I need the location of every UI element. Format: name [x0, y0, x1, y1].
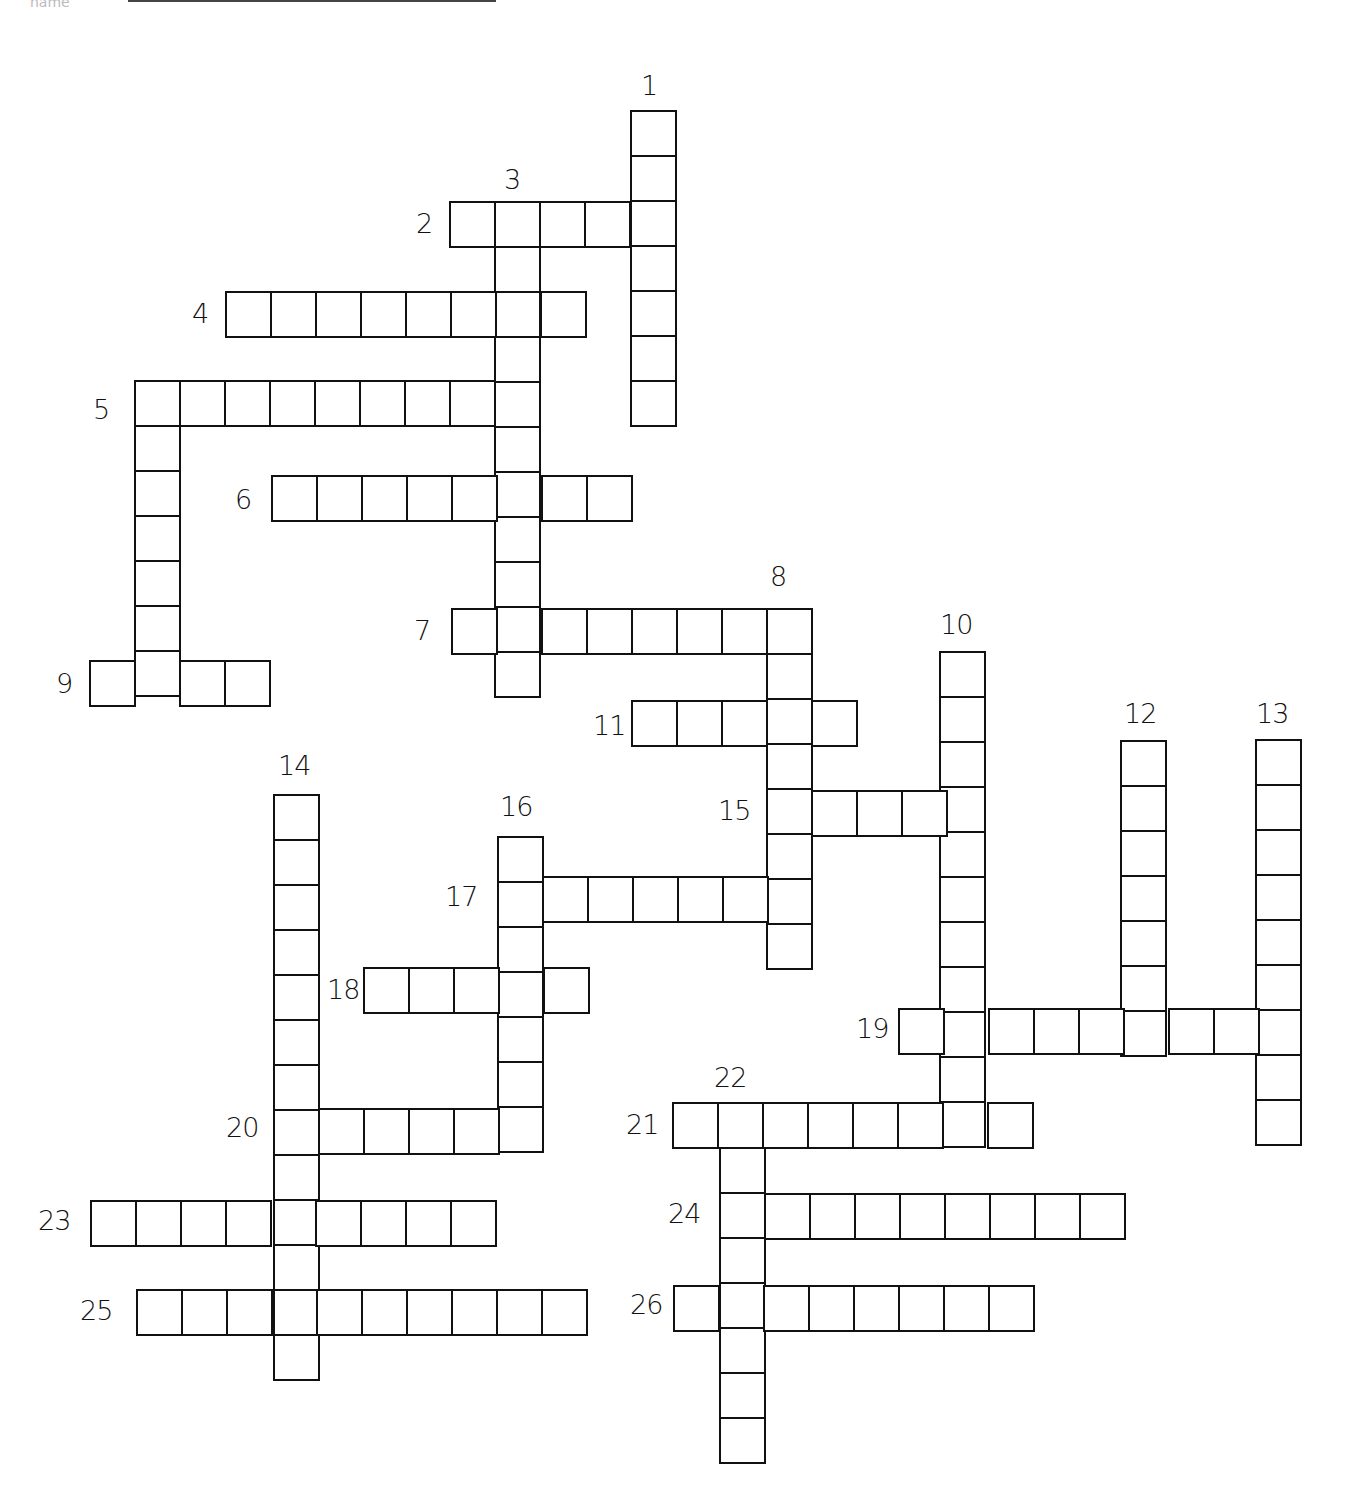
cell-letter-input[interactable]	[275, 976, 318, 1019]
cell-letter-input[interactable]	[496, 293, 539, 336]
cell-letter-input[interactable]	[989, 1104, 1032, 1147]
cell-letter-input[interactable]	[941, 698, 984, 741]
crossword-cell[interactable]	[181, 1289, 228, 1336]
cell-letter-input[interactable]	[765, 1287, 808, 1330]
crossword-cell[interactable]	[134, 380, 181, 427]
cell-letter-input[interactable]	[275, 931, 318, 974]
crossword-cell[interactable]	[225, 1200, 272, 1247]
cell-letter-input[interactable]	[941, 743, 984, 786]
cell-letter-input[interactable]	[1257, 1101, 1300, 1144]
cell-letter-input[interactable]	[275, 1111, 318, 1154]
crossword-cell[interactable]	[719, 1417, 766, 1464]
cell-letter-input[interactable]	[543, 477, 586, 520]
crossword-cell[interactable]	[180, 1200, 227, 1247]
crossword-cell[interactable]	[672, 1102, 719, 1149]
cell-letter-input[interactable]	[632, 247, 675, 290]
cell-letter-input[interactable]	[499, 1108, 542, 1151]
crossword-cell[interactable]	[451, 608, 498, 655]
crossword-cell[interactable]	[630, 200, 677, 247]
cell-letter-input[interactable]	[407, 1202, 450, 1245]
crossword-cell[interactable]	[497, 971, 544, 1018]
crossword-cell[interactable]	[497, 836, 544, 883]
crossword-cell[interactable]	[496, 1289, 543, 1336]
crossword-cell[interactable]	[939, 741, 986, 788]
crossword-cell[interactable]	[494, 246, 541, 293]
crossword-cell[interactable]	[494, 381, 541, 428]
crossword-cell[interactable]	[1255, 739, 1302, 786]
cell-letter-input[interactable]	[900, 1287, 943, 1330]
cell-letter-input[interactable]	[1122, 877, 1165, 920]
cell-letter-input[interactable]	[990, 1010, 1033, 1053]
cell-letter-input[interactable]	[719, 1104, 762, 1147]
crossword-cell[interactable]	[763, 1285, 810, 1332]
cell-letter-input[interactable]	[226, 662, 269, 705]
cell-letter-input[interactable]	[1122, 787, 1165, 830]
cell-letter-input[interactable]	[453, 610, 496, 653]
cell-letter-input[interactable]	[941, 653, 984, 696]
cell-letter-input[interactable]	[1122, 832, 1165, 875]
cell-letter-input[interactable]	[318, 1291, 361, 1334]
crossword-cell[interactable]	[766, 923, 813, 970]
crossword-cell[interactable]	[226, 1289, 273, 1336]
cell-letter-input[interactable]	[92, 1202, 135, 1245]
cell-letter-input[interactable]	[1170, 1010, 1213, 1053]
crossword-cell[interactable]	[451, 475, 498, 522]
crossword-cell[interactable]	[134, 560, 181, 607]
crossword-cell[interactable]	[451, 1289, 498, 1336]
cell-letter-input[interactable]	[317, 293, 360, 336]
crossword-cell[interactable]	[717, 1102, 764, 1149]
crossword-cell[interactable]	[898, 1285, 945, 1332]
cell-letter-input[interactable]	[768, 610, 811, 653]
cell-letter-input[interactable]	[275, 1291, 318, 1334]
cell-letter-input[interactable]	[588, 610, 631, 653]
cell-letter-input[interactable]	[181, 382, 224, 425]
crossword-cell[interactable]	[764, 1193, 811, 1240]
crossword-cell[interactable]	[1120, 1010, 1167, 1057]
cell-letter-input[interactable]	[136, 472, 179, 515]
cell-letter-input[interactable]	[543, 610, 586, 653]
crossword-cell[interactable]	[1034, 1193, 1081, 1240]
crossword-cell[interactable]	[494, 651, 541, 698]
crossword-cell[interactable]	[807, 1102, 854, 1149]
cell-letter-input[interactable]	[273, 477, 316, 520]
cell-letter-input[interactable]	[408, 477, 451, 520]
crossword-cell[interactable]	[584, 201, 631, 248]
crossword-cell[interactable]	[988, 1008, 1035, 1055]
crossword-cell[interactable]	[224, 660, 271, 707]
cell-letter-input[interactable]	[678, 610, 721, 653]
cell-letter-input[interactable]	[632, 337, 675, 380]
cell-letter-input[interactable]	[91, 662, 134, 705]
crossword-cell[interactable]	[316, 475, 363, 522]
cell-letter-input[interactable]	[809, 1104, 852, 1147]
cell-letter-input[interactable]	[138, 1291, 181, 1334]
crossword-cell[interactable]	[273, 794, 320, 841]
crossword-cell[interactable]	[1255, 1099, 1302, 1146]
cell-letter-input[interactable]	[317, 1202, 360, 1245]
crossword-cell[interactable]	[449, 380, 496, 427]
cell-letter-input[interactable]	[275, 1156, 318, 1199]
crossword-cell[interactable]	[136, 1289, 183, 1336]
cell-letter-input[interactable]	[768, 655, 811, 698]
cell-letter-input[interactable]	[858, 792, 901, 835]
cell-letter-input[interactable]	[903, 792, 946, 835]
crossword-cell[interactable]	[630, 380, 677, 427]
crossword-cell[interactable]	[315, 291, 362, 338]
crossword-cell[interactable]	[719, 1282, 766, 1329]
crossword-cell[interactable]	[939, 1056, 986, 1103]
crossword-cell[interactable]	[453, 967, 500, 1014]
cell-letter-input[interactable]	[768, 700, 811, 743]
crossword-cell[interactable]	[134, 650, 181, 697]
cell-letter-input[interactable]	[941, 1013, 984, 1056]
crossword-cell[interactable]	[497, 1016, 544, 1063]
crossword-cell[interactable]	[1255, 784, 1302, 831]
crossword-cell[interactable]	[361, 475, 408, 522]
crossword-cell[interactable]	[273, 929, 320, 976]
cell-letter-input[interactable]	[496, 473, 539, 516]
cell-letter-input[interactable]	[455, 969, 498, 1012]
cell-letter-input[interactable]	[679, 878, 722, 921]
cell-letter-input[interactable]	[227, 293, 270, 336]
cell-letter-input[interactable]	[541, 203, 584, 246]
cell-letter-input[interactable]	[362, 293, 405, 336]
cell-letter-input[interactable]	[946, 1195, 989, 1238]
crossword-cell[interactable]	[676, 700, 723, 747]
